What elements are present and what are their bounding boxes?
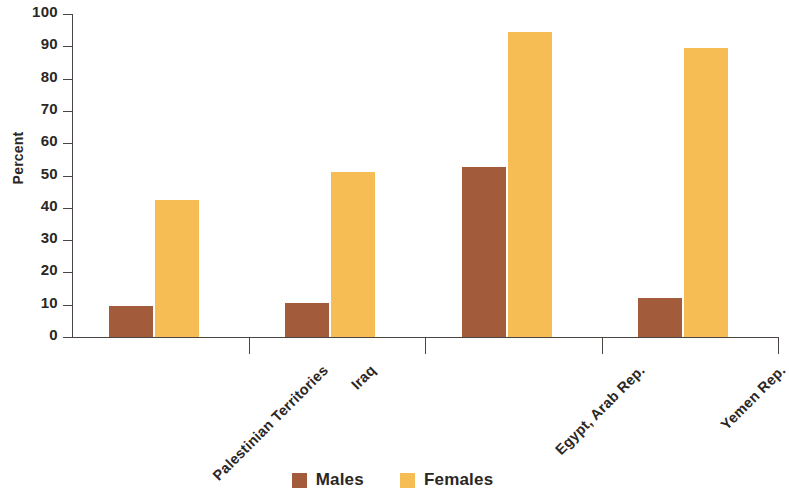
bar-females-3: [684, 48, 728, 337]
x-axis-category-label-2: Egypt, Arab Rep.: [552, 362, 648, 458]
legend-item-males[interactable]: Males: [292, 470, 364, 490]
x-axis-category-label-1: Iraq: [348, 362, 379, 393]
bar-males-2: [462, 167, 506, 337]
y-axis-tick-label: 20: [41, 261, 58, 278]
legend-item-females[interactable]: Females: [400, 470, 493, 490]
y-axis-tick-label: 90: [41, 35, 58, 52]
category-separator-tick: [602, 337, 603, 354]
y-axis-line: [72, 14, 73, 337]
y-axis-tick-label: 70: [41, 100, 58, 117]
legend-swatch-females-icon: [400, 473, 415, 488]
y-axis-tick-mark: [63, 143, 72, 144]
x-axis-label-text: Egypt, Arab Rep.: [552, 362, 648, 458]
category-separator-tick: [425, 337, 426, 354]
legend-label: Females: [424, 470, 493, 490]
x-axis-label-text: Iraq: [348, 362, 379, 393]
y-axis-tick-label: 40: [41, 197, 58, 214]
y-axis-tick-mark: [63, 272, 72, 273]
y-axis-tick-label: 0: [49, 326, 58, 343]
y-axis-tick-mark: [63, 240, 72, 241]
y-axis-tick-label: 80: [41, 68, 58, 85]
y-axis-tick-mark: [63, 111, 72, 112]
bar-males-0: [109, 306, 153, 337]
y-axis-tick-mark: [63, 46, 72, 47]
y-axis-tick-mark: [63, 305, 72, 306]
plot-area: 0102030405060708090100 Palestinian Terri…: [72, 14, 778, 337]
category-separator-tick: [249, 337, 250, 354]
y-axis-tick-mark: [63, 208, 72, 209]
y-axis-title: Percent: [10, 118, 26, 198]
bar-males-3: [638, 298, 682, 337]
x-axis-line: [63, 337, 778, 338]
y-axis-tick-label: 50: [41, 165, 58, 182]
chart-legend: MalesFemales: [0, 470, 785, 490]
y-axis-tick-mark: [63, 14, 72, 15]
bar-females-2: [508, 32, 552, 337]
bar-females-0: [155, 200, 199, 337]
y-axis-tick-label: 10: [41, 294, 58, 311]
x-axis-category-label-0: Palestinian Territories: [209, 362, 331, 484]
x-axis-label-text: Yemen Rep.: [718, 362, 789, 433]
category-separator-tick: [778, 337, 779, 354]
y-axis-tick-label: 30: [41, 229, 58, 246]
y-axis-tick-mark: [63, 176, 72, 177]
y-axis-tick-label: 60: [41, 132, 58, 149]
bar-males-1: [285, 303, 329, 337]
bar-females-1: [331, 172, 375, 337]
legend-label: Males: [316, 470, 364, 490]
legend-swatch-males-icon: [292, 473, 307, 488]
y-axis-tick-label: 100: [32, 3, 58, 20]
x-axis-label-text: Palestinian Territories: [209, 362, 331, 484]
x-axis-category-label-3: Yemen Rep.: [718, 362, 789, 433]
y-axis-tick-mark: [63, 337, 72, 338]
y-axis-tick-mark: [63, 79, 72, 80]
